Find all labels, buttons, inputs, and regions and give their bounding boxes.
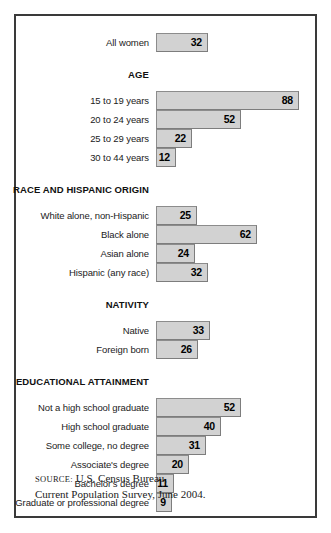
bar-label: Asian alone bbox=[100, 244, 149, 263]
bar-value: 26 bbox=[181, 341, 192, 358]
bar-value: 32 bbox=[191, 264, 202, 281]
bar: 25 bbox=[156, 206, 197, 225]
bar-value: 88 bbox=[282, 92, 293, 109]
chart-row: 15 to 19 years88 bbox=[16, 91, 315, 110]
bar: 33 bbox=[156, 321, 210, 340]
chart-row: Some college, no degree31 bbox=[16, 436, 315, 455]
header-spacer bbox=[16, 314, 315, 321]
chart-rows: All women32AGE15 to 19 years8820 to 24 y… bbox=[16, 16, 315, 516]
group-spacer bbox=[16, 52, 315, 65]
bar-label: Black alone bbox=[101, 225, 149, 244]
bar-value: 40 bbox=[204, 418, 215, 435]
section-header: NATIVITY bbox=[16, 295, 315, 314]
bar-label: All women bbox=[106, 33, 149, 52]
bar-label: White alone, non-Hispanic bbox=[41, 206, 149, 225]
bar: 22 bbox=[156, 129, 192, 148]
bar-label: 15 to 19 years bbox=[90, 91, 149, 110]
bar-value: 52 bbox=[224, 111, 235, 128]
source-line-1: U.S. Census Bureau, bbox=[73, 472, 167, 484]
section-header-label: EDUCATIONAL ATTAINMENT bbox=[16, 372, 149, 391]
bar: 52 bbox=[156, 398, 241, 417]
top-spacer bbox=[16, 16, 315, 33]
bar: 88 bbox=[156, 91, 299, 110]
bar-value: 33 bbox=[193, 322, 204, 339]
chart-row: Asian alone24 bbox=[16, 244, 315, 263]
bar-value: 31 bbox=[189, 437, 200, 454]
chart-row: 30 to 44 years12 bbox=[16, 148, 315, 167]
bar: 32 bbox=[156, 263, 208, 282]
source-line-2: Current Population Survey, June 2004. bbox=[35, 488, 205, 500]
bar-value: 25 bbox=[180, 207, 191, 224]
header-spacer bbox=[16, 199, 315, 206]
bar: 32 bbox=[156, 33, 208, 52]
chart-frame: All women32AGE15 to 19 years8820 to 24 y… bbox=[14, 14, 317, 518]
chart-row: High school graduate40 bbox=[16, 417, 315, 436]
chart-row: All women32 bbox=[16, 33, 315, 52]
chart-row: 25 to 29 years22 bbox=[16, 129, 315, 148]
section-header: EDUCATIONAL ATTAINMENT bbox=[16, 372, 315, 391]
bar-label: High school graduate bbox=[61, 417, 149, 436]
bar: 26 bbox=[156, 340, 198, 359]
bar-value: 62 bbox=[240, 226, 251, 243]
bar-label: 30 to 44 years bbox=[90, 148, 149, 167]
section-header-label: RACE AND HISPANIC ORIGIN bbox=[13, 180, 149, 199]
bar-label: Some college, no degree bbox=[46, 436, 149, 455]
bar-value: 12 bbox=[159, 149, 170, 166]
bar: 31 bbox=[156, 436, 206, 455]
header-spacer bbox=[16, 391, 315, 398]
bar: 24 bbox=[156, 244, 195, 263]
bar-label: Foreign born bbox=[96, 340, 149, 359]
bar-label: Native bbox=[123, 321, 149, 340]
group-spacer bbox=[16, 359, 315, 372]
bar-value: 52 bbox=[224, 399, 235, 416]
source-note: SOURCE: U.S. Census Bureau, Current Popu… bbox=[35, 471, 295, 501]
chart-row: Not a high school graduate52 bbox=[16, 398, 315, 417]
chart-row: Native33 bbox=[16, 321, 315, 340]
chart-row: 20 to 24 years52 bbox=[16, 110, 315, 129]
chart-row: Foreign born26 bbox=[16, 340, 315, 359]
bar-value: 22 bbox=[175, 130, 186, 147]
chart-row: Hispanic (any race)32 bbox=[16, 263, 315, 282]
chart-row: White alone, non-Hispanic25 bbox=[16, 206, 315, 225]
group-spacer bbox=[16, 282, 315, 295]
source-label: SOURCE: bbox=[35, 474, 73, 484]
section-header-label: AGE bbox=[128, 65, 149, 84]
header-spacer bbox=[16, 84, 315, 91]
bar-value: 32 bbox=[191, 34, 202, 51]
bar: 62 bbox=[156, 225, 257, 244]
bar: 40 bbox=[156, 417, 221, 436]
section-header: RACE AND HISPANIC ORIGIN bbox=[16, 180, 315, 199]
chart-row: Black alone62 bbox=[16, 225, 315, 244]
bar-label: 20 to 24 years bbox=[90, 110, 149, 129]
bar-label: Hispanic (any race) bbox=[69, 263, 149, 282]
bar-value: 24 bbox=[178, 245, 189, 262]
group-spacer bbox=[16, 167, 315, 180]
bar: 12 bbox=[156, 148, 176, 167]
bar-label: Not a high school graduate bbox=[38, 398, 149, 417]
section-header-label: NATIVITY bbox=[106, 295, 149, 314]
bar: 52 bbox=[156, 110, 241, 129]
section-header: AGE bbox=[16, 65, 315, 84]
bar-label: 25 to 29 years bbox=[90, 129, 149, 148]
